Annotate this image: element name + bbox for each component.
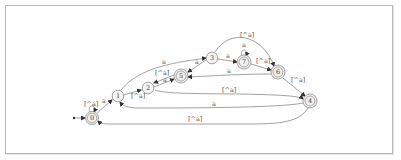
edge-3-7: a (218, 52, 237, 62)
svg-text:6: 6 (276, 68, 280, 76)
edge-0-1: a (97, 97, 112, 113)
state-3[interactable]: 3 (206, 52, 218, 64)
svg-text:a: a (226, 52, 230, 60)
state-0[interactable]: 0 (86, 112, 99, 125)
svg-text:4: 4 (308, 97, 312, 105)
state-6[interactable]: 6 (271, 65, 285, 79)
edge-2-4: [^a] (155, 86, 303, 99)
svg-text:a: a (102, 97, 106, 105)
svg-text:5: 5 (179, 72, 183, 80)
svg-text:a: a (195, 58, 199, 66)
automaton-diagram: [^a] a [^a] a a [^a] a a [^a] (0, 0, 401, 160)
svg-text:[^a]: [^a] (256, 57, 270, 65)
svg-text:a: a (227, 67, 231, 75)
svg-text:3: 3 (210, 54, 214, 62)
state-2[interactable]: 2 (142, 82, 154, 94)
svg-text:a: a (242, 41, 246, 49)
svg-text:a: a (212, 100, 216, 108)
edge-6-4: [^a] (283, 76, 305, 96)
edge-0-0: [^a] (84, 100, 98, 112)
svg-text:a: a (163, 76, 167, 84)
svg-text:2: 2 (146, 84, 150, 92)
state-7[interactable]: 7 (237, 55, 251, 69)
svg-text:[^a]: [^a] (291, 76, 305, 84)
edge-6-5: a (188, 67, 271, 77)
edge-1-2: [^a] (124, 90, 145, 100)
state-5[interactable]: 5 (174, 69, 188, 83)
svg-text:[^a]: [^a] (240, 31, 254, 39)
state-4[interactable]: 4 (303, 94, 317, 108)
edge-7-7: a (241, 41, 246, 56)
edge-7-6: [^a] (251, 57, 271, 70)
svg-text:1: 1 (116, 92, 120, 100)
edge-4-1: a (120, 100, 303, 108)
state-1[interactable]: 1 (112, 90, 124, 102)
svg-text:0: 0 (90, 114, 94, 122)
svg-text:[^a]: [^a] (155, 69, 169, 77)
svg-text:a: a (162, 58, 166, 66)
svg-text:[^a]: [^a] (222, 86, 236, 94)
edge-4-0: [^a] (98, 108, 308, 124)
start-arrow (73, 117, 85, 119)
svg-text:7: 7 (242, 58, 246, 66)
svg-text:[^a]: [^a] (84, 100, 98, 108)
svg-text:[^a]: [^a] (188, 115, 202, 123)
svg-text:[^a]: [^a] (131, 92, 145, 100)
